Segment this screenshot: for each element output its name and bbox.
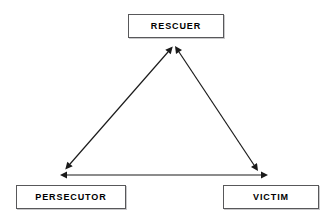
- node-rescuer: RESCUER: [128, 14, 224, 38]
- node-rescuer-label: RESCUER: [151, 22, 201, 31]
- node-victim: VICTIM: [223, 185, 319, 209]
- edge-persecutor-rescuer: [70, 52, 168, 164]
- node-persecutor-label: PERSECUTOR: [35, 193, 106, 202]
- edge-rescuer-victim: [179, 52, 254, 165]
- node-victim-label: VICTIM: [253, 193, 289, 202]
- diagram-canvas: RESCUER PERSECUTOR VICTIM: [0, 0, 333, 215]
- node-persecutor: PERSECUTOR: [16, 185, 126, 209]
